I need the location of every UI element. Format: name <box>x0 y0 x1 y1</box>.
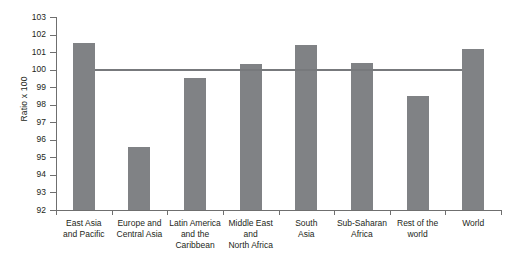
x-axis-tick <box>390 210 391 215</box>
x-axis-tick <box>112 210 113 215</box>
bar <box>462 49 484 210</box>
y-axis-tick-label: 100 <box>0 65 46 74</box>
x-axis-category-label: Latin America and the Caribbean <box>167 218 223 251</box>
bar <box>128 147 150 210</box>
x-axis-category-label: East Asia and Pacific <box>56 218 112 240</box>
y-axis-tick-label: 97 <box>0 118 46 127</box>
x-axis-category-label: Rest of the world <box>390 218 446 240</box>
x-axis-tick <box>445 210 446 215</box>
bar <box>240 64 262 210</box>
bar <box>351 63 373 210</box>
plot-area <box>56 17 501 210</box>
reference-line <box>95 69 462 71</box>
x-axis-tick <box>501 210 502 215</box>
y-axis-tick-label: 93 <box>0 188 46 197</box>
x-axis-category-label: World <box>445 218 501 229</box>
bar <box>407 96 429 210</box>
y-axis-tick-label: 96 <box>0 135 46 144</box>
x-axis-category-label: Sub-Saharan Africa <box>334 218 390 240</box>
x-axis-tick <box>167 210 168 215</box>
bar-chart: Ratio x 100 1031021011009998979695949392… <box>0 0 517 268</box>
y-axis-tick-label: 94 <box>0 170 46 179</box>
y-axis-tick-label: 103 <box>0 13 46 22</box>
y-axis-tick-label: 98 <box>0 100 46 109</box>
x-axis-tick <box>334 210 335 215</box>
y-axis-tick-label: 92 <box>0 206 46 215</box>
y-axis-tick-label: 99 <box>0 83 46 92</box>
bar <box>184 78 206 210</box>
y-axis-tick-label: 95 <box>0 153 46 162</box>
x-axis-category-label: South Asia <box>279 218 335 240</box>
x-axis-tick <box>56 210 57 215</box>
x-axis-tick <box>279 210 280 215</box>
x-axis-category-label: Middle East and North Africa <box>223 218 279 251</box>
x-axis-category-label: Europe and Central Asia <box>112 218 168 240</box>
y-axis-tick-label: 101 <box>0 48 46 57</box>
y-axis-tick-label: 102 <box>0 30 46 39</box>
bar <box>73 43 95 210</box>
x-axis-tick <box>223 210 224 215</box>
